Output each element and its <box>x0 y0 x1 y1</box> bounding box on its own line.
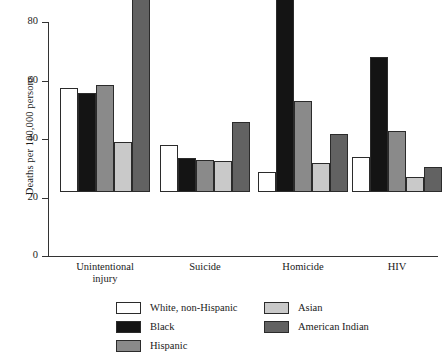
bar-chart-figure: Deaths per 100,000 persons 020406080 Uni… <box>0 0 448 364</box>
legend-item-white-non-hispanic: White, non-Hispanic <box>116 298 237 317</box>
legend-item-hispanic: Hispanic <box>116 336 237 355</box>
bar-2-3 <box>312 163 330 192</box>
legend-label: American Indian <box>298 321 369 333</box>
legend-swatch-icon <box>116 340 141 352</box>
bar-0-3 <box>114 142 132 192</box>
bar-2-2 <box>294 101 312 192</box>
bar-0-2 <box>96 85 114 192</box>
legend-item-asian: Asian <box>264 298 369 317</box>
x-label-group-3: HIV <box>337 261 448 273</box>
legend-swatch-icon <box>116 321 141 333</box>
legend-swatch-icon <box>264 302 289 314</box>
legend-column-left: White, non-HispanicBlackHispanic <box>116 298 237 355</box>
legend-swatch-icon <box>264 321 289 333</box>
legend-label: Black <box>150 321 175 333</box>
legend-label: Hispanic <box>150 340 187 352</box>
bar-0-0 <box>60 88 78 192</box>
legend-column-right: AsianAmerican Indian <box>264 298 369 336</box>
bar-0-4 <box>132 0 150 192</box>
legend-swatch-icon <box>116 302 141 314</box>
bar-2-1 <box>276 0 294 192</box>
bar-3-4 <box>424 167 442 192</box>
plot-area: Deaths per 100,000 persons 020406080 Uni… <box>0 0 448 300</box>
bar-1-0 <box>160 145 178 192</box>
bar-1-1 <box>178 158 196 192</box>
bar-1-3 <box>214 161 232 192</box>
bar-2-4 <box>330 134 348 193</box>
legend-label: Asian <box>298 302 323 314</box>
bar-3-0 <box>352 157 370 192</box>
bar-1-2 <box>196 160 214 192</box>
bar-3-2 <box>388 131 406 192</box>
bar-3-3 <box>406 177 424 192</box>
legend-label: White, non-Hispanic <box>150 302 237 314</box>
bars-layer <box>0 0 448 300</box>
bar-3-1 <box>370 57 388 192</box>
bar-0-1 <box>78 93 96 192</box>
legend-item-black: Black <box>116 317 237 336</box>
bar-1-4 <box>232 122 250 192</box>
legend-item-american-indian: American Indian <box>264 317 369 336</box>
bar-2-0 <box>258 172 276 192</box>
legend: White, non-HispanicBlackHispanic AsianAm… <box>116 298 416 360</box>
